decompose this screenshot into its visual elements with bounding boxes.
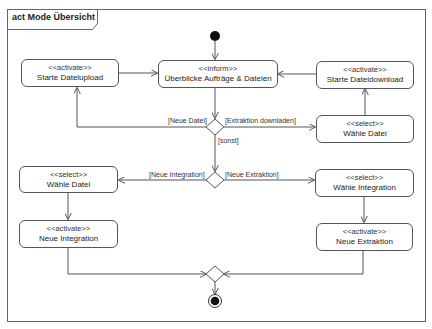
- action-label: Überblicke Aufträge & Dateien: [164, 74, 271, 84]
- stereotype-label: <<activate>>: [343, 65, 386, 75]
- action-label: Wähle Datei: [47, 180, 91, 190]
- decision-node-2: [206, 172, 224, 188]
- stereotype-label: <<activate>>: [47, 224, 90, 234]
- decision-node-1: [206, 119, 224, 135]
- merge-node: [206, 266, 224, 282]
- stereotype-label: <<select>>: [346, 119, 383, 129]
- action-label: Neue Integration: [39, 234, 98, 244]
- frame-title: act Mode Übersicht: [12, 12, 95, 22]
- initial-node: [210, 31, 220, 41]
- action-label: Starte Dateiupload: [37, 73, 103, 83]
- action-ueberblicke-auftraege-dateien[interactable]: <<inform>> Überblicke Aufträge & Dateien: [158, 60, 278, 88]
- action-neue-integration[interactable]: <<activate>> Neue Integration: [19, 220, 118, 248]
- guard-sonst: [sonst]: [218, 137, 239, 144]
- action-waehle-integration[interactable]: <<select>> Wähle Integration: [315, 169, 414, 197]
- action-waehle-datei-download[interactable]: <<select>> Wähle Datei: [316, 115, 414, 143]
- action-label: Starte Dateidownload: [327, 75, 404, 85]
- action-label: Neue Extraktion: [336, 237, 393, 247]
- stereotype-label: <<select>>: [346, 173, 383, 183]
- flow-new-integration-to-merge: [68, 247, 206, 274]
- stereotype-label: <<select>>: [50, 170, 87, 180]
- final-node-core: [211, 297, 220, 306]
- activity-diagram-canvas: [0, 0, 432, 329]
- guard-extraktion-downladen: [Extraktion downladen]: [225, 117, 296, 124]
- guard-neue-extraktion: [Neue Extraktion]: [225, 171, 279, 178]
- stereotype-label: <<inform>>: [199, 64, 237, 74]
- action-starte-dateiupload[interactable]: <<activate>> Starte Dateiupload: [21, 59, 119, 87]
- action-waehle-datei-integration[interactable]: <<select>> Wähle Datei: [19, 166, 118, 193]
- stereotype-label: <<activate>>: [343, 227, 386, 237]
- guard-neue-integration: [Neue Integration]: [149, 171, 205, 178]
- action-neue-extraktion[interactable]: <<activate>> Neue Extraktion: [316, 223, 413, 251]
- stereotype-label: <<activate>>: [48, 63, 91, 73]
- guard-neue-datei: [Neue Datei]: [168, 117, 207, 124]
- action-label: Wähle Integration: [333, 183, 396, 193]
- flow-new-extraction-to-merge: [224, 250, 363, 274]
- action-starte-dateidownload[interactable]: <<activate>> Starte Dateidownload: [316, 61, 414, 89]
- action-label: Wähle Datei: [343, 129, 387, 139]
